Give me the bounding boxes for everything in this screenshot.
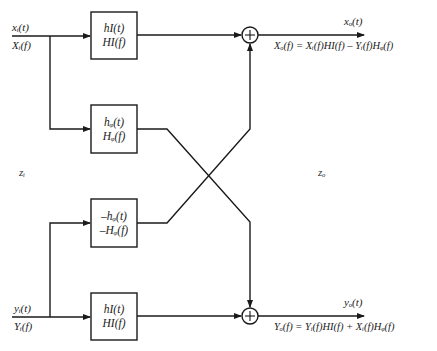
block-hI-top-freq: HΙ(f) bbox=[91, 35, 137, 49]
block-hQ-label: hᵩ(t) Hᵩ(f) bbox=[91, 115, 137, 143]
block-hI-top-time: hΙ(t) bbox=[91, 21, 137, 35]
neg-hQ-cross-wire bbox=[137, 44, 250, 223]
block-hI-top-label: hΙ(t) HΙ(f) bbox=[91, 21, 137, 49]
top-summer-icon bbox=[242, 27, 258, 43]
bottom-input-freq-label: Yᵢ(f) bbox=[14, 320, 32, 333]
bottom-branch-wire bbox=[50, 223, 90, 317]
top-input-freq-label: Xᵢ(f) bbox=[12, 39, 31, 52]
bottom-output-equation: Yₒ(f) = Yᵢ(f)HΙ(f) + Xᵢ(f)Hᵩ(f) bbox=[274, 320, 395, 333]
top-input-time-label: xᵢ(t) bbox=[12, 21, 29, 34]
block-hQ-freq: Hᵩ(f) bbox=[91, 129, 137, 143]
block-hQ-time: hᵩ(t) bbox=[91, 115, 137, 129]
top-output-time-label: xₒ(t) bbox=[344, 15, 362, 28]
hQ-cross-wire bbox=[137, 129, 250, 307]
bottom-summer-icon bbox=[242, 308, 258, 324]
block-hI-bottom-label: hΙ(t) HΙ(f) bbox=[91, 302, 137, 330]
block-hI-bottom-time: hΙ(t) bbox=[91, 302, 137, 316]
block-neg-hQ-label: –hᵩ(t) –Hᵩ(f) bbox=[91, 209, 137, 237]
bottom-input-time-label: yᵢ(t) bbox=[14, 302, 31, 315]
diagram-canvas bbox=[0, 0, 437, 351]
block-neg-hQ-freq: –Hᵩ(f) bbox=[91, 223, 137, 237]
top-branch-wire bbox=[50, 36, 90, 129]
bottom-output-time-label: yₒ(t) bbox=[344, 296, 362, 309]
top-output-equation: Xₒ(f) = Xᵢ(f)HΙ(f) – Yᵢ(f)Hᵩ(f) bbox=[274, 39, 393, 52]
output-z-label: zₒ bbox=[318, 166, 325, 179]
block-neg-hQ-time: –hᵩ(t) bbox=[91, 209, 137, 223]
input-z-label: zᵢ bbox=[19, 166, 25, 179]
block-hI-bottom-freq: HΙ(f) bbox=[91, 316, 137, 330]
